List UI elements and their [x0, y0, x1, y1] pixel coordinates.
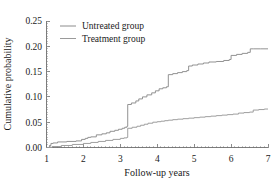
y-axis-title: Cumulative probability: [2, 37, 13, 130]
y-tick-label: 0.10: [25, 92, 42, 102]
x-tick-label: 4: [155, 154, 160, 164]
y-tick-label: 0.05: [25, 118, 42, 128]
series-line-untreated: [47, 49, 269, 148]
legend-label: Untreated group: [82, 21, 144, 31]
axis-tick-marks: [47, 21, 269, 148]
y-axis-tick-labels: 0.000.050.100.150.200.25: [25, 16, 42, 153]
chart-figure: 0.000.050.100.150.200.25 1234567 Follow-…: [0, 0, 278, 188]
x-tick-label: 2: [81, 154, 86, 164]
x-axis-title: Follow-up years: [124, 167, 189, 178]
y-tick-label: 0.15: [25, 67, 42, 77]
x-tick-label: 6: [229, 154, 234, 164]
series-line-treatment: [47, 109, 269, 147]
cumulative-incidence-chart: 0.000.050.100.150.200.25 1234567 Follow-…: [0, 0, 278, 188]
chart-legend: Untreated groupTreatment group: [60, 21, 145, 44]
x-tick-label: 7: [266, 154, 271, 164]
x-tick-label: 5: [192, 154, 197, 164]
y-tick-label: 0.25: [25, 16, 42, 26]
legend-label: Treatment group: [82, 34, 145, 44]
x-axis-tick-labels: 1234567: [44, 154, 271, 164]
y-tick-label: 0.00: [25, 143, 42, 153]
x-tick-label: 3: [118, 154, 123, 164]
x-tick-label: 1: [44, 154, 49, 164]
series-lines: [47, 49, 269, 148]
y-tick-label: 0.20: [25, 42, 42, 52]
